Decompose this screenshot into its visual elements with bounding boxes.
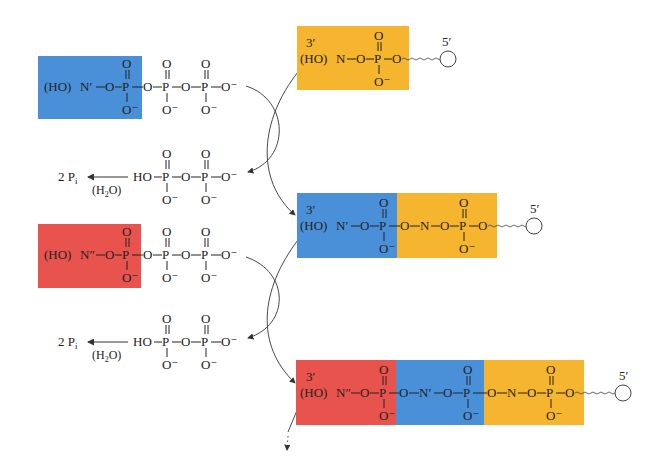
svg-text:(HO): (HO)	[300, 51, 327, 66]
svg-text:O⁻: O⁻	[122, 102, 138, 117]
pyrophosphate-1: 2 Pi (H2O) HO P O O⁻ O P O O⁻ O⁻	[58, 146, 237, 207]
svg-text:P: P	[162, 79, 169, 94]
svg-text:O: O	[201, 146, 210, 161]
svg-text:5′: 5′	[619, 368, 629, 383]
svg-text:P: P	[162, 169, 169, 184]
svg-text:(HO): (HO)	[300, 218, 327, 233]
svg-text:O: O	[162, 224, 171, 239]
svg-text:O: O	[443, 385, 452, 400]
svg-text:O⁻: O⁻	[162, 357, 178, 372]
five-prime-end-circle	[440, 51, 456, 67]
dna-polymerization-diagram: (HO) N′ O P O O⁻ O P O O⁻ O P O O⁻ O⁻ 2 …	[0, 0, 663, 460]
base-n-prime: N′	[80, 79, 92, 94]
svg-text:P: P	[379, 218, 386, 233]
svg-text:P: P	[201, 247, 208, 262]
base-n: N	[336, 51, 346, 66]
pyrophosphate-release-arrow-2	[246, 257, 279, 338]
svg-text:(HO): (HO)	[44, 247, 71, 262]
svg-text:O⁻: O⁻	[379, 241, 395, 256]
svg-text:O⁻: O⁻	[162, 270, 178, 285]
svg-text:O⁻: O⁻	[201, 102, 217, 117]
svg-text:P: P	[463, 385, 470, 400]
svg-text:O: O	[201, 56, 210, 71]
svg-text:O: O	[478, 218, 487, 233]
svg-text:O: O	[181, 247, 190, 262]
svg-text:O: O	[440, 218, 449, 233]
base-n-double-prime: N″	[80, 247, 95, 262]
svg-text:O⁻: O⁻	[221, 79, 237, 94]
svg-text:O: O	[181, 334, 190, 349]
svg-text:O⁻: O⁻	[463, 408, 479, 423]
dntp-n-double-prime: (HO) N″ O P O O⁻ O P O O⁻ O P O O⁻ O⁻	[38, 224, 237, 288]
strand-extension-arrow-2	[267, 240, 298, 383]
dntp-n-prime: (HO) N′ O P O O⁻ O P O O⁻ O P O O⁻ O⁻	[38, 56, 237, 119]
strand-2: 3′ (HO) N′ O P O O⁻ O N O P O O⁻ O 5′	[297, 193, 542, 258]
svg-text:O: O	[392, 51, 401, 66]
svg-text:5′: 5′	[530, 201, 540, 216]
pyrophosphate-2: 2 Pi (H2O) HO P O O⁻ O P O O⁻ O⁻	[58, 311, 237, 372]
svg-text:O: O	[201, 311, 210, 326]
svg-text:N′: N′	[419, 385, 431, 400]
svg-text:O⁻: O⁻	[374, 74, 390, 89]
svg-text:O: O	[360, 385, 369, 400]
svg-text:N′: N′	[336, 218, 348, 233]
svg-text:O: O	[400, 218, 409, 233]
water-label: (H2O)	[92, 183, 121, 199]
svg-text:O: O	[379, 362, 388, 377]
svg-text:N″: N″	[336, 385, 351, 400]
strand-extension-arrow-1	[267, 72, 298, 215]
svg-text:O: O	[143, 79, 152, 94]
svg-text:O⁻: O⁻	[459, 241, 475, 256]
svg-text:O: O	[399, 385, 408, 400]
svg-text:O: O	[181, 169, 190, 184]
svg-text:P: P	[122, 79, 129, 94]
three-prime-label: 3′	[306, 35, 316, 50]
svg-text:O: O	[463, 362, 472, 377]
svg-text:O: O	[122, 56, 131, 71]
svg-text:O: O	[122, 224, 131, 239]
svg-text:P: P	[374, 51, 381, 66]
svg-text:(HO): (HO)	[300, 385, 327, 400]
strand-3: 3′ (HO) N″ O P O O⁻ O N′ O P O O⁻ O N O …	[296, 360, 631, 425]
five-prime-end-circle	[615, 385, 631, 401]
svg-text:N: N	[507, 385, 517, 400]
svg-text:O: O	[546, 362, 555, 377]
svg-text:P: P	[162, 247, 169, 262]
svg-text:P: P	[162, 334, 169, 349]
svg-text:O: O	[374, 28, 383, 43]
svg-text:O⁻: O⁻	[201, 357, 217, 372]
svg-text:O⁻: O⁻	[162, 102, 178, 117]
svg-text:O: O	[487, 385, 496, 400]
svg-text:O: O	[162, 146, 171, 161]
svg-text:P: P	[546, 385, 553, 400]
five-prime-end-circle	[526, 218, 542, 234]
svg-text:O: O	[162, 311, 171, 326]
svg-text:O: O	[379, 195, 388, 210]
svg-text:2 Pi: 2 Pi	[58, 334, 78, 351]
svg-text:O: O	[565, 385, 574, 400]
svg-text:O⁻: O⁻	[162, 192, 178, 207]
continuation-dots	[287, 436, 288, 450]
svg-text:P: P	[201, 334, 208, 349]
svg-text:N: N	[420, 218, 430, 233]
svg-text:3′: 3′	[306, 369, 316, 384]
svg-text:O⁻: O⁻	[122, 270, 138, 285]
svg-text:P: P	[201, 169, 208, 184]
pyrophosphate-release-arrow-1	[246, 86, 279, 172]
svg-text:O: O	[459, 195, 468, 210]
svg-text:HO: HO	[133, 169, 152, 184]
svg-text:P: P	[201, 79, 208, 94]
svg-text:O: O	[356, 51, 365, 66]
svg-text:P: P	[459, 218, 466, 233]
svg-text:O: O	[162, 56, 171, 71]
svg-text:O⁻: O⁻	[201, 270, 217, 285]
svg-text:O: O	[527, 385, 536, 400]
reaction-arrows	[246, 72, 298, 450]
svg-text:HO: HO	[133, 334, 152, 349]
svg-text:O: O	[360, 218, 369, 233]
ho-label: (HO)	[44, 79, 71, 94]
svg-text:O: O	[181, 79, 190, 94]
svg-text:O⁻: O⁻	[221, 169, 237, 184]
svg-text:O⁻: O⁻	[379, 408, 395, 423]
five-prime-label: 5′	[442, 34, 452, 49]
